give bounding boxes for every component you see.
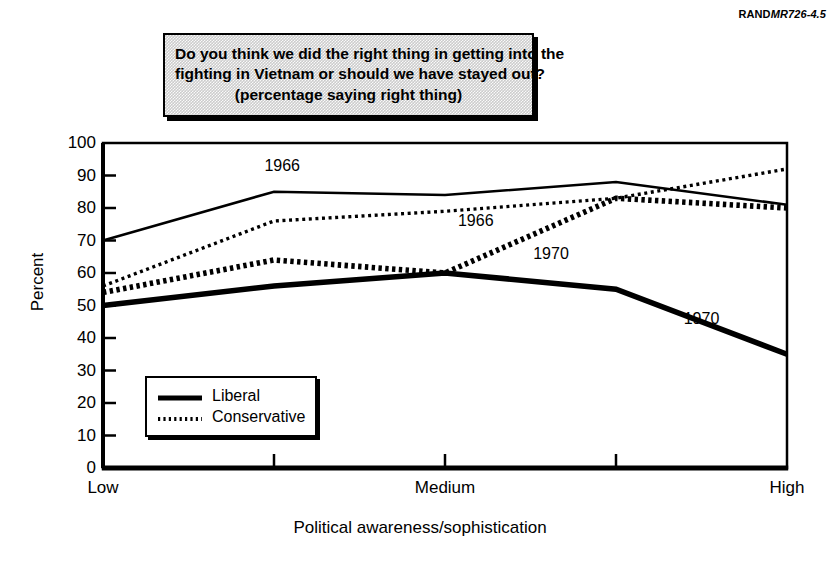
line-chart: 1009080706050403020100 LowMediumHigh Per… xyxy=(0,0,840,565)
x-tick-label-medium: Medium xyxy=(415,478,475,498)
y-axis-title: Percent xyxy=(28,222,48,342)
series-line-liberal-1966 xyxy=(103,182,787,241)
y-tick-label-60: 60 xyxy=(52,263,96,283)
y-tick-label-40: 40 xyxy=(52,328,96,348)
series-annotation-0-1966: 1966 xyxy=(264,157,300,175)
legend-label-liberal: Liberal xyxy=(212,387,260,405)
y-tick-label-100: 100 xyxy=(52,133,96,153)
x-tick-label-high: High xyxy=(770,478,805,498)
y-tick-label-50: 50 xyxy=(52,296,96,316)
legend-item-conservative: Conservative xyxy=(157,406,305,427)
x-tick-label-low: Low xyxy=(87,478,118,498)
legend-swatch-liberal xyxy=(157,390,203,402)
legend-swatch-conservative xyxy=(157,411,203,423)
y-tick-label-0: 0 xyxy=(52,458,96,478)
x-axis-tick-labels: LowMediumHigh xyxy=(0,478,840,504)
x-axis-title: Political awareness/sophistication xyxy=(0,518,840,538)
legend-item-liberal: Liberal xyxy=(157,385,305,406)
series-annotation-2-1970: 1970 xyxy=(533,245,569,263)
y-tick-label-80: 80 xyxy=(52,198,96,218)
y-tick-label-20: 20 xyxy=(52,393,96,413)
series-line-conservative-1966 xyxy=(103,169,787,286)
y-tick-label-70: 70 xyxy=(52,231,96,251)
chart-legend: Liberal Conservative xyxy=(145,376,317,437)
legend-label-conservative: Conservative xyxy=(212,408,305,426)
series-annotation-3-1970: 1970 xyxy=(684,310,720,328)
series-annotation-1-1966: 1966 xyxy=(458,212,494,230)
y-tick-label-90: 90 xyxy=(52,166,96,186)
y-tick-label-30: 30 xyxy=(52,361,96,381)
y-tick-label-10: 10 xyxy=(52,426,96,446)
